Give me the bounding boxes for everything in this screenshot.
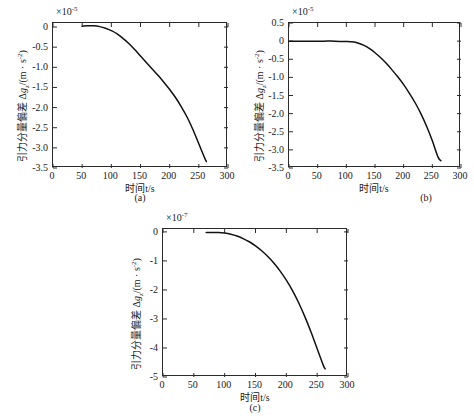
curve-svg-a (53, 23, 228, 168)
chart-panel-c: ×10-7 0-1-2-3-4-5 050100150200250300 引力分… (112, 206, 362, 416)
panel-caption-b: (b) (420, 192, 432, 203)
curve-svg-b (289, 23, 461, 168)
data-curve (206, 232, 325, 368)
x-tick-label: 200 (161, 170, 176, 181)
x-tick-label: 200 (395, 170, 410, 181)
figure-root: ×10-5 0-0.5-1.0-1.5-2.0-2.5-3.0-3.5 0501… (0, 0, 474, 416)
x-tick-label: 0 (286, 170, 291, 181)
y-exponent-label-a: ×10-5 (56, 6, 77, 17)
chart-panel-b: ×10-5 0.50-0.5-1.0-1.5-2.0-2.5-3.0-3.5 0… (240, 0, 474, 205)
y-tick-label: -5 (114, 371, 158, 382)
plot-area-a (52, 22, 227, 167)
y-exponent-label-c: ×10-7 (166, 212, 187, 223)
panel-caption-a: (a) (134, 192, 145, 203)
y-axis-label-a: 引力分量偏差 Δgz/(m · s-2) (14, 50, 29, 162)
panel-caption-c: (c) (249, 402, 260, 413)
x-tick-label: 50 (312, 170, 322, 181)
x-tick-label: 200 (278, 379, 293, 390)
y-tick-label: 0.5 (240, 17, 284, 28)
x-tick-label: 250 (309, 379, 324, 390)
x-tick-label: 100 (338, 170, 353, 181)
chart-panel-a: ×10-5 0-0.5-1.0-1.5-2.0-2.5-3.0-3.5 0501… (0, 0, 238, 205)
y-tick-label: -3.5 (4, 162, 48, 173)
x-tick-label: 0 (160, 379, 165, 390)
x-tick-label: 100 (216, 379, 231, 390)
y-axis-label-b: 引力分量偏差 Δgz/(m · s-2) (251, 50, 266, 162)
x-tick-label: 250 (190, 170, 205, 181)
y-tick-label: 0 (4, 21, 48, 32)
data-curve (82, 26, 206, 162)
x-tick-label: 250 (424, 170, 439, 181)
y-tick-label: 0 (240, 35, 284, 46)
x-tick-label: 50 (188, 379, 198, 390)
x-tick-label: 100 (103, 170, 118, 181)
x-tick-label: 300 (340, 379, 355, 390)
x-tick-label: 0 (50, 170, 55, 181)
y-tick-label: 0 (114, 225, 158, 236)
x-tick-label: 50 (76, 170, 86, 181)
x-tick-label: 300 (453, 170, 468, 181)
curve-svg-c (163, 229, 348, 377)
data-curve (289, 41, 441, 161)
plot-area-c (162, 228, 347, 376)
y-exponent-label-b: ×10-5 (292, 6, 313, 17)
y-tick-label: -3.5 (240, 162, 284, 173)
x-axis-label-b: 时间t/s (359, 180, 388, 195)
y-axis-label-c: 引力分量偏差 Δgz/(m · s-2) (128, 258, 143, 370)
x-tick-label: 300 (220, 170, 235, 181)
plot-area-b (288, 22, 460, 167)
